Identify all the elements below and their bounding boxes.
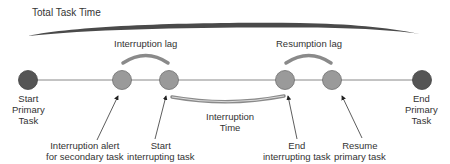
node-resume-primary bbox=[323, 71, 342, 90]
node-end-interrupting bbox=[276, 71, 295, 90]
label-end-interrupting: End interrupting task bbox=[263, 140, 331, 162]
total-task-time-bar bbox=[28, 23, 420, 36]
arrow-resume-primary bbox=[342, 96, 362, 138]
arrow-interruption-alert bbox=[97, 96, 118, 140]
label-start-primary: Start Primary Task bbox=[12, 93, 45, 126]
label-start-interrupting: Start interrupting task bbox=[127, 140, 195, 162]
arrow-start-interrupting bbox=[155, 96, 166, 139]
node-interruption-alert bbox=[113, 71, 132, 90]
total-task-time-label: Total Task Time bbox=[32, 7, 101, 18]
resumption-lag-arc bbox=[286, 56, 331, 64]
interruption-lag-label: Interruption lag bbox=[114, 38, 177, 49]
arrow-end-interrupting bbox=[288, 96, 297, 139]
label-resume-primary: Resume primary task bbox=[334, 140, 386, 162]
node-start-interrupting bbox=[160, 71, 179, 90]
resumption-lag-label: Resumption lag bbox=[276, 38, 342, 49]
interruption-lag-arc bbox=[123, 56, 168, 64]
interruption-time-label: Interruption Time bbox=[206, 111, 254, 133]
label-interruption-alert: Interruption alert for secondary task bbox=[46, 140, 124, 162]
node-end-primary bbox=[413, 71, 432, 90]
node-start-primary bbox=[19, 71, 38, 90]
label-end-primary: End Primary Task bbox=[405, 93, 438, 126]
